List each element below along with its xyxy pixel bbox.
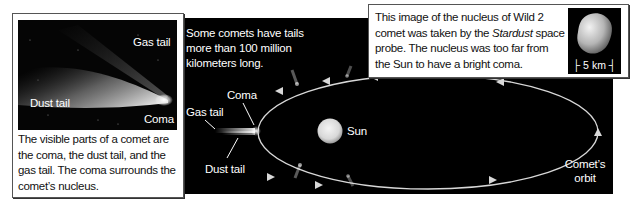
wild2-nucleus-photo: ├ 5 km ┤ (568, 8, 621, 74)
wild2-nucleus-callout: This image of the nucleus of Wild 2 come… (368, 4, 629, 78)
comet-parts-caption: The visible parts of a comet are the com… (18, 132, 183, 194)
scale-bar-label: ├ 5 km ┤ (568, 59, 621, 71)
dust-tail-label: Dust tail (205, 162, 245, 176)
wild2-caption: This image of the nucleus of Wild 2 come… (375, 10, 565, 72)
gas-tail-label: Gas tail (186, 105, 223, 119)
tail-length-caption: Some comets have tails more than 100 mil… (186, 26, 316, 71)
sun (318, 119, 343, 144)
comet-parts-callout: Gas tail Dust tail Coma The visible part… (12, 13, 184, 198)
photo-coma-label: Coma (144, 113, 174, 125)
photo-gas-tail-label: Gas tail (133, 36, 170, 48)
orbit-label: Comet’s orbit (563, 157, 607, 185)
comet-orbit (258, 75, 598, 189)
sun-label: Sun (347, 124, 367, 138)
photo-dust-tail-label: Dust tail (30, 97, 70, 109)
coma-label: Coma (227, 88, 257, 102)
dust-tail (222, 131, 255, 135)
comet-photo: Gas tail Dust tail Coma (18, 20, 177, 130)
coma (251, 126, 261, 136)
